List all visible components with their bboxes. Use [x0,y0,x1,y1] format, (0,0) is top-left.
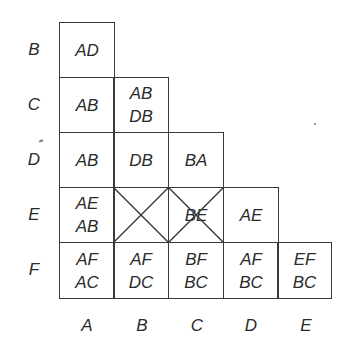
cell-text: DB [129,149,153,172]
cell-text-2: BC [184,271,208,294]
row-label-c: C [19,95,49,115]
cell-f-a: AF AC [59,242,115,299]
cell-e-b [113,187,169,243]
cell-text: AB [76,94,99,117]
cell-text-2: BC [239,271,263,294]
cell-d-a: AB [59,132,115,188]
scan-dot [314,123,316,125]
cell-f-b: AF DC [113,242,169,299]
cell-c-b: AB DB [113,77,169,133]
col-label-e: E [291,316,321,336]
cross-out-icon [114,188,168,242]
cell-text-1: AE [76,192,99,215]
scan-mark [39,139,43,142]
cell-text-2: DB [129,105,153,128]
cell-f-c: BF BC [168,242,224,299]
cell-b-a: AD [59,22,115,78]
cell-text-2: AB [76,215,99,238]
cell-text-2: BC [293,271,317,294]
cell-text-1: AF [130,248,152,271]
cell-d-b: DB [113,132,169,188]
col-label-d: D [236,316,266,336]
cell-d-c: BA [168,132,224,188]
cross-out-icon [169,188,223,242]
row-label-b: B [19,40,49,60]
cell-text: AD [75,39,99,62]
row-label-d: D [19,150,49,170]
cell-e-c: BE [168,187,224,243]
col-label-a: A [72,316,102,336]
cell-f-d: AF BC [223,242,279,299]
col-label-b: B [127,316,157,336]
cell-text-2: DC [129,271,154,294]
cell-text-1: EF [294,248,316,271]
cell-c-a: AB [59,77,115,133]
cell-text: AE [240,204,263,227]
cell-text-1: BF [185,248,207,271]
cell-text: BA [185,149,208,172]
cell-text: AB [76,149,99,172]
cell-e-a: AE AB [59,187,115,243]
col-label-c: C [182,316,212,336]
row-label-e: E [19,205,49,225]
row-label-f: F [19,260,49,280]
cell-f-e: EF BC [277,242,332,299]
cell-text-1: AF [240,248,262,271]
cell-text-1: AF [76,248,98,271]
cell-text-2: AC [75,271,99,294]
cell-e-d: AE [223,187,279,243]
cell-text-1: AB [130,82,153,105]
